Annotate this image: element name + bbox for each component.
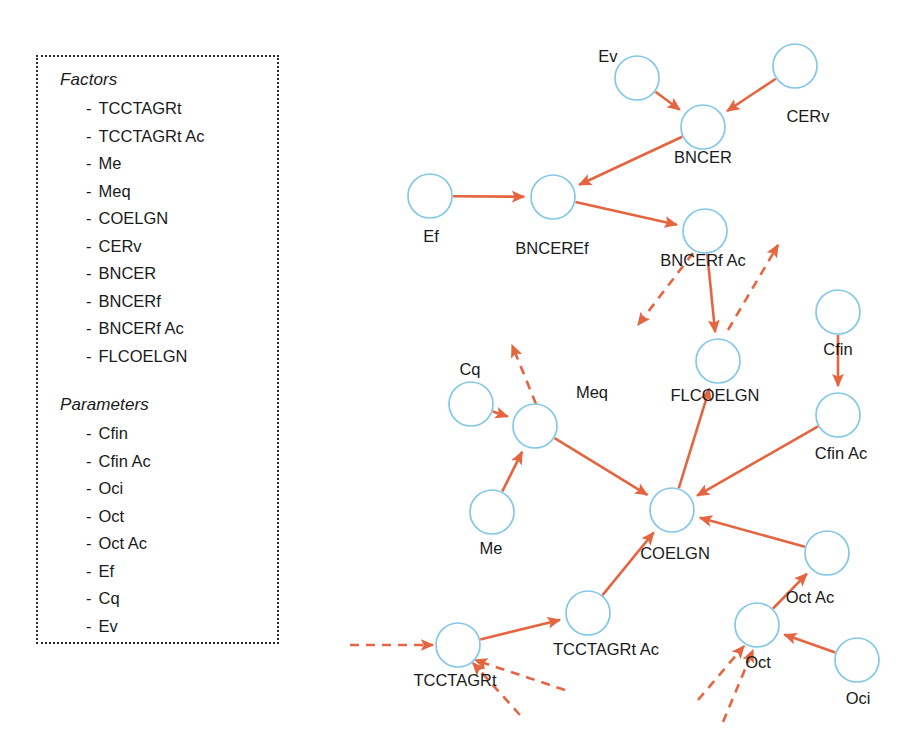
node-cfin[interactable] <box>816 290 860 334</box>
legend-factor-item-3: -Meq <box>86 178 277 206</box>
node-label-oci: Oci <box>846 690 871 707</box>
legend-parameter-item-label: Oci <box>99 479 124 497</box>
edge-BNCER-to-BNCEREf <box>579 137 682 185</box>
legend-parameter-item-6: -Cq <box>86 585 277 613</box>
legend-parameter-item-label: Oct <box>99 507 125 525</box>
legend-factor-item-label: BNCERf Ac <box>99 319 184 337</box>
legend-parameter-item-3: -Oct <box>86 503 277 531</box>
legend-factor-item-4: -COELGN <box>86 205 277 233</box>
legend-factor-item-8: -BNCERf Ac <box>86 315 277 343</box>
list-bullet: - <box>86 154 92 172</box>
edge-Ef-to-BNCEREf <box>453 196 524 197</box>
node-cq[interactable] <box>449 382 493 426</box>
legend-parameter-item-label: Cq <box>99 589 120 607</box>
legend-factors-heading: Factors <box>60 71 277 88</box>
node-label-coelgn: COELGN <box>640 545 710 562</box>
edge-Ev-to-BNCER <box>655 92 679 110</box>
node-octac[interactable] <box>805 531 849 575</box>
legend-parameter-item-label: Cfin <box>99 424 128 442</box>
legend-parameter-item-1: -Cfin Ac <box>86 448 277 476</box>
legend-parameter-item-label: Ev <box>99 617 118 635</box>
edge-Oci-to-Oct <box>784 635 835 653</box>
node-coelgn[interactable] <box>650 488 694 532</box>
edge-TCCTAGRt-to-TCCTAGRtAc <box>480 620 560 640</box>
legend-panel: Factors -TCCTAGRt-TCCTAGRt Ac-Me-Meq-COE… <box>36 55 279 644</box>
legend-factor-item-label: TCCTAGRt Ac <box>99 127 205 145</box>
node-label-ev: Ev <box>598 48 617 65</box>
edge-CfinAc-to-COELGN <box>697 426 818 495</box>
node-me[interactable] <box>470 490 514 534</box>
legend-factor-item-label: FLCOELGN <box>99 347 188 365</box>
legend-parameter-item-label: Ef <box>99 562 115 580</box>
edge-CERv-to-BNCER <box>727 79 776 111</box>
node-label-flcoelgn: FLCOELGN <box>671 387 760 404</box>
legend-parameter-item-4: -Oct Ac <box>86 530 277 558</box>
node-label-bnceref: BNCEREf <box>515 240 588 257</box>
node-ef[interactable] <box>408 174 452 218</box>
node-tcctagrtac[interactable] <box>566 591 610 635</box>
node-cfinac[interactable] <box>816 393 860 437</box>
list-bullet: - <box>86 479 92 497</box>
legend-factor-item-9: -FLCOELGN <box>86 343 277 371</box>
list-bullet: - <box>86 209 92 227</box>
node-label-cerv: CERv <box>786 108 829 125</box>
list-bullet: - <box>86 264 92 282</box>
list-bullet: - <box>86 347 92 365</box>
edge-OctAc-to-COELGN <box>700 518 805 547</box>
legend-factor-item-1: -TCCTAGRt Ac <box>86 123 277 151</box>
list-bullet: - <box>86 292 92 310</box>
list-bullet: - <box>86 562 92 580</box>
diagram-page: Factors -TCCTAGRt-TCCTAGRt Ac-Me-Meq-COE… <box>0 0 911 745</box>
node-label-cfin: Cfin <box>823 341 852 358</box>
node-label-octac: Oct Ac <box>786 589 835 606</box>
legend-factor-item-label: Meq <box>99 182 131 200</box>
legend-parameter-item-2: -Oci <box>86 475 277 503</box>
legend-factor-item-label: BNCERf <box>99 292 161 310</box>
node-label-meq: Meq <box>576 384 608 401</box>
legend-factor-item-6: -BNCER <box>86 260 277 288</box>
node-flcoelgn[interactable] <box>696 339 740 383</box>
list-bullet: - <box>86 617 92 635</box>
legend-parameter-item-5: -Ef <box>86 558 277 586</box>
legend-factor-item-label: CERv <box>99 237 142 255</box>
node-label-tcctagrtac: TCCTAGRt Ac <box>553 641 659 658</box>
node-label-oct: Oct <box>745 654 771 671</box>
legend-parameter-item-label: Cfin Ac <box>99 452 151 470</box>
edge-meq-out-upleft <box>512 345 536 404</box>
node-bncerfac[interactable] <box>683 209 727 253</box>
node-oct[interactable] <box>735 603 779 647</box>
node-meq[interactable] <box>513 404 557 448</box>
legend-factor-item-0: -TCCTAGRt <box>86 95 277 123</box>
legend-factor-item-2: -Me <box>86 150 277 178</box>
node-label-me: Me <box>480 540 503 557</box>
legend-factor-item-label: COELGN <box>99 209 169 227</box>
node-bncer[interactable] <box>681 105 725 149</box>
edge-oct-in-lowleft1 <box>698 646 744 700</box>
node-label-cfinac: Cfin Ac <box>815 445 867 462</box>
node-tcctagrt[interactable] <box>436 623 480 667</box>
legend-factors-list: -TCCTAGRt-TCCTAGRt Ac-Me-Meq-COELGN-CERv… <box>60 95 277 370</box>
list-bullet: - <box>86 424 92 442</box>
legend-parameter-item-label: Oct Ac <box>99 534 148 552</box>
node-oci[interactable] <box>835 638 879 682</box>
list-bullet: - <box>86 237 92 255</box>
edge-TCCTAGRtAc-to-COELGN <box>603 532 654 595</box>
list-bullet: - <box>86 534 92 552</box>
edge-Meq-to-COELGN <box>555 438 648 495</box>
legend-parameter-item-7: -Ev <box>86 613 277 641</box>
node-label-bncer: BNCER <box>674 149 732 166</box>
node-label-tcctagrt: TCCTAGRt <box>413 672 496 689</box>
node-label-cq: Cq <box>459 361 480 378</box>
legend-parameter-item-0: -Cfin <box>86 420 277 448</box>
list-bullet: - <box>86 99 92 117</box>
node-label-bncerfac: BNCERf Ac <box>660 252 745 269</box>
legend-factor-item-label: Me <box>99 154 122 172</box>
node-cerv[interactable] <box>773 44 817 88</box>
node-ev[interactable] <box>615 56 659 100</box>
list-bullet: - <box>86 319 92 337</box>
legend-factor-item-5: -CERv <box>86 233 277 261</box>
node-label-ef: Ef <box>423 228 439 245</box>
node-bnceref[interactable] <box>531 175 575 219</box>
legend-factor-item-label: BNCER <box>99 264 157 282</box>
legend-parameters-list: -Cfin-Cfin Ac-Oci-Oct-Oct Ac-Ef-Cq-Ev <box>60 420 277 640</box>
